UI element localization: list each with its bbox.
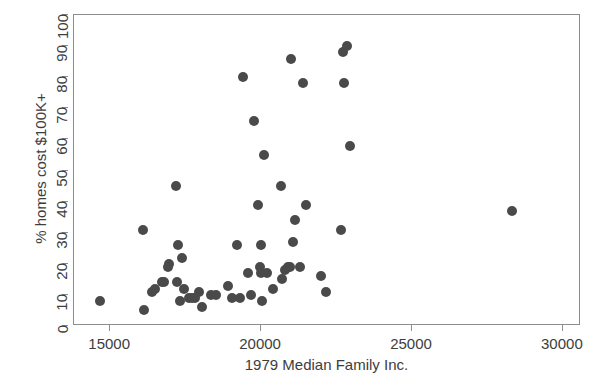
data-point <box>285 262 295 272</box>
y-tick-label: 50 <box>54 170 71 187</box>
y-axis-title: % homes cost $100K+ <box>32 24 49 314</box>
data-point <box>298 78 308 88</box>
data-point <box>173 240 183 250</box>
data-point <box>211 290 221 300</box>
data-point <box>301 200 311 210</box>
data-point <box>190 293 200 303</box>
data-point <box>223 281 233 291</box>
data-point <box>246 290 256 300</box>
x-tick-mark <box>411 325 412 331</box>
y-tick-label: 60 <box>54 138 71 155</box>
data-point <box>164 259 174 269</box>
y-tick-label: 20 <box>54 263 71 280</box>
data-point <box>290 215 300 225</box>
data-point <box>507 206 517 216</box>
data-point <box>339 78 349 88</box>
data-point <box>345 141 355 151</box>
data-point <box>139 305 149 315</box>
y-tick-label: 90 <box>54 45 71 62</box>
x-tick-mark <box>109 325 110 331</box>
x-axis-ticks: 15000200002500030000 <box>73 325 580 355</box>
x-tick-label: 20000 <box>239 335 281 352</box>
data-point <box>316 271 326 281</box>
y-tick-label: 100 <box>54 14 71 39</box>
data-point <box>257 296 267 306</box>
data-point <box>276 181 286 191</box>
x-tick-label: 25000 <box>390 335 432 352</box>
data-point <box>159 277 169 287</box>
data-point <box>268 284 278 294</box>
scatter-plot-figure: 0102030405060708090100 % homes cost $100… <box>0 0 613 385</box>
data-point <box>243 268 253 278</box>
data-point <box>95 296 105 306</box>
plot-area <box>73 14 580 325</box>
y-tick-label: 80 <box>54 76 71 93</box>
data-point <box>277 274 287 284</box>
x-tick-mark <box>562 325 563 331</box>
data-point <box>259 150 269 160</box>
data-point <box>262 268 272 278</box>
data-point <box>177 253 187 263</box>
y-tick-label: 70 <box>54 107 71 124</box>
data-point <box>232 240 242 250</box>
x-tick-label: 15000 <box>88 335 130 352</box>
y-tick-label: 30 <box>54 232 71 249</box>
data-point <box>295 262 305 272</box>
data-point <box>256 240 266 250</box>
data-point <box>253 200 263 210</box>
y-tick-label: 0 <box>54 325 71 333</box>
data-point <box>197 302 207 312</box>
x-tick-label: 30000 <box>541 335 583 352</box>
data-point <box>286 54 296 64</box>
data-point <box>288 237 298 247</box>
data-point <box>138 225 148 235</box>
data-point <box>342 41 352 51</box>
y-tick-label: 40 <box>54 201 71 218</box>
y-tick-label: 10 <box>54 294 71 311</box>
data-point <box>321 287 331 297</box>
x-tick-mark <box>260 325 261 331</box>
data-point <box>171 181 181 191</box>
data-point <box>249 116 259 126</box>
data-point <box>235 293 245 303</box>
data-point <box>238 72 248 82</box>
data-point <box>336 225 346 235</box>
x-axis-title: 1979 Median Family Inc. <box>73 356 580 373</box>
